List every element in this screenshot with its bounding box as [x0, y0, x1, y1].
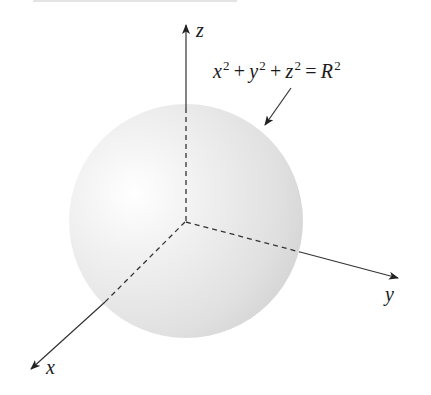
x-axis-label: x: [46, 357, 55, 377]
sphere-diagram: z y x x2+y2+z2=R2: [0, 0, 431, 395]
eq-x: x: [213, 60, 222, 82]
eq-plus-1: +: [234, 60, 245, 82]
eq-y: y: [249, 60, 258, 82]
eq-z: z: [286, 60, 294, 82]
eq-z-exp: 2: [295, 58, 302, 73]
y-axis-label: y: [385, 284, 394, 304]
eq-equals: =: [305, 60, 316, 82]
z-axis-label: z: [196, 20, 204, 40]
eq-R: R: [321, 60, 333, 82]
eq-y-exp: 2: [259, 58, 266, 73]
eq-plus-2: +: [270, 60, 281, 82]
sphere-equation: x2+y2+z2=R2: [213, 61, 341, 81]
surface-pointer-arrow: [265, 88, 291, 125]
eq-R-exp: 2: [334, 58, 341, 73]
eq-x-exp: 2: [223, 58, 230, 73]
